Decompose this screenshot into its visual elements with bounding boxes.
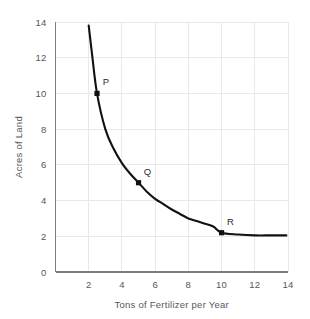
x-tick-label-4: 4 (119, 279, 124, 290)
point-label-r: R (227, 216, 234, 227)
x-tick-label-12: 12 (249, 279, 260, 290)
point-label-q: Q (144, 166, 152, 177)
x-tick-label-2: 2 (86, 279, 91, 290)
y-tick-label-12: 12 (36, 52, 47, 63)
y-axis-title: Acres of Land (13, 116, 24, 178)
x-tick-label-6: 6 (152, 279, 157, 290)
point-label-p: P (103, 76, 110, 87)
x-tick-label-10: 10 (216, 279, 227, 290)
marker-q (136, 180, 141, 185)
y-tick-label-14: 14 (36, 17, 47, 28)
y-tick-label-6: 6 (41, 159, 46, 170)
y-tick-label-0: 0 (41, 267, 46, 278)
x-tick-label-8: 8 (186, 279, 191, 290)
y-tick-label-4: 4 (41, 195, 46, 206)
isoquant-chart: 02468101214 2468101214 PQR Tons of Ferti… (0, 0, 310, 319)
marker-p (94, 91, 99, 96)
x-tick-label-14: 14 (283, 279, 294, 290)
y-tick-label-8: 8 (41, 124, 46, 135)
x-axis-title: Tons of Fertilizer per Year (115, 299, 229, 310)
y-tick-label-2: 2 (41, 231, 46, 242)
marker-r (219, 230, 224, 235)
y-tick-label-10: 10 (36, 88, 47, 99)
chart-container: 02468101214 2468101214 PQR Tons of Ferti… (0, 0, 310, 319)
